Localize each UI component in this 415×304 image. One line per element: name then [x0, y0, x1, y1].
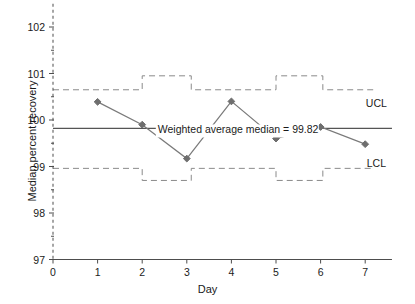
y-tick-label: 97 — [33, 254, 45, 266]
data-point-marker-1 — [94, 98, 101, 105]
y-axis-title: Median percent recovery — [26, 61, 38, 221]
x-axis-title: Day — [0, 283, 415, 295]
control-limit-label-lcl: LCL — [367, 157, 386, 169]
chart-annotations: UCLLCLWeighted average median = 99.82 — [156, 97, 387, 169]
x-tick-label: 6 — [318, 266, 324, 278]
x-tick-label: 0 — [50, 266, 56, 278]
control-chart: 97989910010110201234567 UCLLCLWeighted a… — [0, 0, 415, 304]
control-limit-label-ucl: UCL — [366, 97, 387, 109]
x-tick-label: 2 — [139, 266, 145, 278]
x-tick-label: 4 — [228, 266, 234, 278]
lcl-step-line — [53, 168, 374, 180]
tick-labels: 97989910010110201234567 — [27, 21, 368, 278]
chart-canvas: 97989910010110201234567 UCLLCLWeighted a… — [0, 0, 415, 304]
x-tick-label: 1 — [95, 266, 101, 278]
ucl-step-line — [53, 76, 374, 90]
x-tick-label: 7 — [362, 266, 368, 278]
data-point-marker-7 — [362, 141, 369, 148]
x-tick-label: 3 — [184, 266, 190, 278]
center-line-annotation: Weighted average median = 99.82 — [158, 123, 319, 135]
x-tick-label: 5 — [273, 266, 279, 278]
y-tick-label: 102 — [27, 21, 45, 33]
